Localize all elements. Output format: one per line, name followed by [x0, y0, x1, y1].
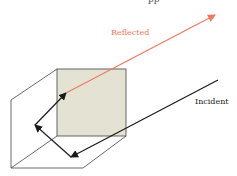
cropped-caption: pp	[148, 0, 160, 4]
top-left-edge	[11, 69, 57, 100]
bottom-right-edge	[83, 136, 126, 168]
corner-reflector-diagram: pp Reflected Incident	[0, 0, 237, 176]
reflected-label: Reflected	[111, 28, 149, 37]
incident-label: Incident	[195, 97, 229, 106]
inner-diagonal-edge	[11, 136, 57, 168]
diagram-canvas	[0, 0, 237, 176]
reflected-ray	[66, 15, 215, 93]
